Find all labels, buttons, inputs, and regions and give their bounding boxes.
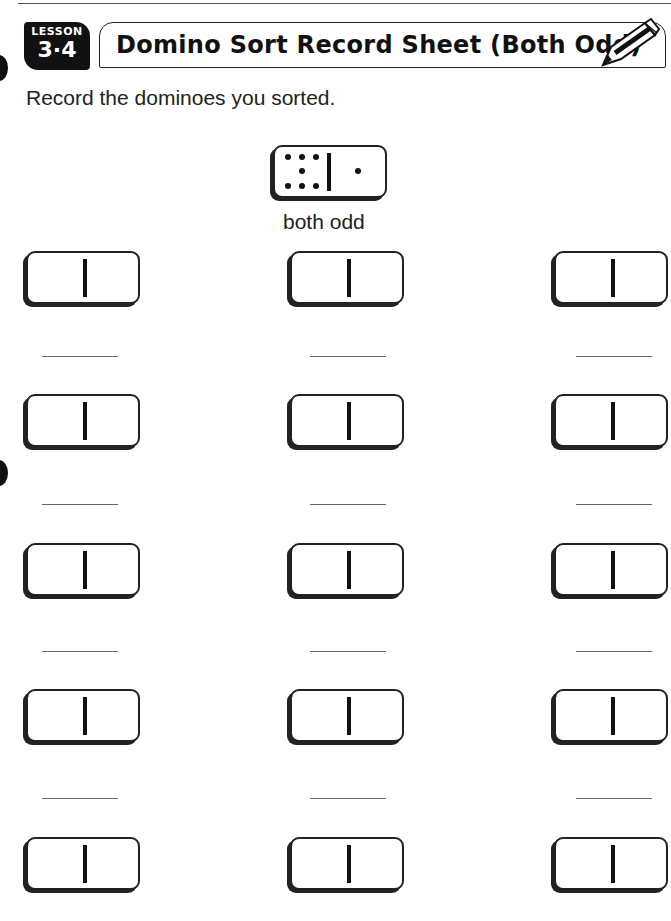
lesson-badge: LESSON 3·4 [24, 22, 90, 70]
lesson-label: LESSON [24, 22, 90, 38]
answer-line[interactable] [576, 651, 652, 652]
blank-domino[interactable] [26, 543, 140, 596]
answer-line[interactable] [310, 798, 386, 799]
pip [285, 183, 291, 189]
binder-hole [0, 55, 8, 81]
answer-line[interactable] [576, 356, 652, 357]
pip [299, 154, 305, 160]
blank-domino[interactable] [554, 543, 668, 596]
answer-line[interactable] [42, 651, 118, 652]
answer-line[interactable] [576, 798, 652, 799]
domino-divider [83, 845, 87, 883]
pencil-icon [599, 17, 661, 69]
answer-line[interactable] [576, 504, 652, 505]
pip [299, 168, 305, 174]
blank-domino[interactable] [290, 394, 404, 447]
blank-domino[interactable] [26, 251, 140, 304]
domino-divider [611, 551, 615, 589]
domino-divider [611, 259, 615, 297]
pip [313, 154, 319, 160]
answer-line[interactable] [310, 356, 386, 357]
lesson-number: 3·4 [24, 38, 90, 62]
domino-divider [347, 697, 351, 735]
title-box: Domino Sort Record Sheet (Both Odd) [99, 22, 666, 68]
domino-divider [611, 697, 615, 735]
blank-domino[interactable] [554, 689, 668, 742]
blank-domino[interactable] [290, 251, 404, 304]
domino-divider [347, 551, 351, 589]
domino-divider [611, 402, 615, 440]
example-caption: both odd [283, 210, 365, 234]
binder-hole [0, 460, 8, 486]
blank-domino[interactable] [290, 543, 404, 596]
domino-divider [83, 402, 87, 440]
pip [285, 154, 291, 160]
example-domino [273, 145, 387, 198]
pip [355, 168, 361, 174]
domino-divider [83, 697, 87, 735]
domino-divider [83, 551, 87, 589]
instructions: Record the dominoes you sorted. [26, 86, 335, 110]
name-date-line [18, 3, 671, 4]
blank-domino[interactable] [26, 394, 140, 447]
domino-divider [327, 153, 331, 191]
domino-divider [347, 402, 351, 440]
domino-divider [347, 259, 351, 297]
pip [313, 183, 319, 189]
answer-line[interactable] [310, 651, 386, 652]
blank-domino[interactable] [26, 689, 140, 742]
pip [299, 183, 305, 189]
page-title: Domino Sort Record Sheet (Both Odd) [116, 31, 642, 59]
blank-domino[interactable] [554, 251, 668, 304]
answer-line[interactable] [42, 356, 118, 357]
blank-domino[interactable] [26, 837, 140, 890]
blank-domino[interactable] [554, 837, 668, 890]
answer-line[interactable] [42, 504, 118, 505]
answer-line[interactable] [310, 504, 386, 505]
blank-domino[interactable] [290, 837, 404, 890]
domino-divider [611, 845, 615, 883]
domino-divider [347, 845, 351, 883]
domino-divider [83, 259, 87, 297]
answer-line[interactable] [42, 798, 118, 799]
blank-domino[interactable] [290, 689, 404, 742]
blank-domino[interactable] [554, 394, 668, 447]
